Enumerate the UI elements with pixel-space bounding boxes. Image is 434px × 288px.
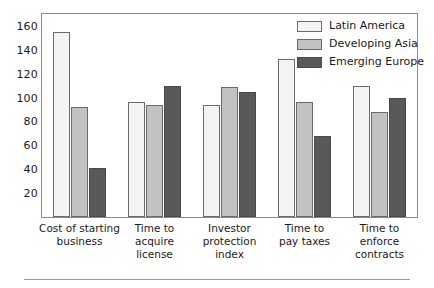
y-tick-label: 160: [0, 20, 38, 31]
x-axis: Cost of startingbusinessTime toacquireli…: [42, 222, 417, 274]
bar[interactable]: [71, 107, 88, 217]
legend-item[interactable]: Emerging Europe: [297, 54, 415, 70]
y-tick-label: 140: [0, 44, 38, 55]
y-tick-label: 120: [0, 68, 38, 79]
bar-chart-figure: 20406080100120140160 Latin AmericaDevelo…: [0, 0, 434, 288]
legend-item[interactable]: Latin America: [297, 18, 415, 34]
bar[interactable]: [371, 112, 388, 217]
legend-label: Emerging Europe: [329, 56, 424, 68]
bar[interactable]: [389, 98, 406, 217]
legend-swatch-developing-asia: [297, 39, 322, 50]
y-tick-label: 60: [0, 140, 38, 151]
bar[interactable]: [296, 102, 313, 217]
x-category-label-line: enforce: [334, 235, 425, 248]
y-tick-label: 20: [0, 188, 38, 199]
bar[interactable]: [146, 105, 163, 217]
bar[interactable]: [278, 59, 295, 217]
bar-group: [42, 14, 117, 217]
bar[interactable]: [164, 86, 181, 217]
bar[interactable]: [89, 168, 106, 217]
legend-item[interactable]: Developing Asia: [297, 36, 415, 52]
legend-swatch-emerging-europe: [297, 57, 322, 68]
bar[interactable]: [53, 32, 70, 217]
bar-group: [192, 14, 267, 217]
bar[interactable]: [203, 105, 220, 217]
x-category-label-line: Time to: [334, 222, 425, 235]
y-axis: 20406080100120140160: [0, 13, 38, 218]
bar[interactable]: [314, 136, 331, 217]
y-tick-label: 40: [0, 164, 38, 175]
x-category-label-line: contracts: [334, 248, 425, 261]
bar[interactable]: [353, 86, 370, 217]
x-category-label: Time toenforcecontracts: [334, 222, 425, 261]
bar[interactable]: [221, 87, 238, 217]
legend-swatch-latin-america: [297, 21, 322, 32]
y-tick-label: 80: [0, 116, 38, 127]
legend-label: Latin America: [329, 20, 405, 32]
y-tick-label: 100: [0, 92, 38, 103]
x-category-label-line: index: [184, 248, 275, 261]
bottom-divider: [24, 279, 410, 280]
bar[interactable]: [239, 92, 256, 217]
legend-label: Developing Asia: [329, 38, 418, 50]
bar-group: [117, 14, 192, 217]
chart-legend: Latin AmericaDeveloping AsiaEmerging Eur…: [297, 18, 415, 72]
bar[interactable]: [128, 102, 145, 217]
